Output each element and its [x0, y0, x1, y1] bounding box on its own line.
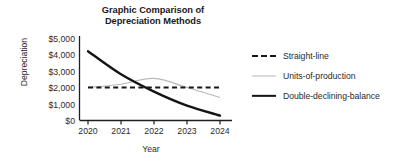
legend-swatch-dashed-line-icon [252, 51, 276, 61]
legend-item-units-of-production: Units-of-production [252, 66, 412, 86]
legend-label-double-declining-balance: Double-declining-balance [283, 91, 380, 101]
legend-swatch-thin-line-icon [252, 71, 276, 81]
legend-label-straight-line: Straight-line [283, 51, 329, 61]
series-line-double-declining-balance [88, 51, 220, 115]
legend-label-units-of-production: Units-of-production [283, 71, 355, 81]
chart-legend: Straight-line Units-of-production Double… [252, 46, 412, 106]
legend-swatch-thick-line-icon [252, 91, 276, 101]
axes-group [80, 36, 233, 125]
legend-item-straight-line: Straight-line [252, 46, 412, 66]
depreciation-chart-figure: Graphic Comparison of Depreciation Metho… [0, 0, 413, 162]
series-group [88, 51, 220, 115]
legend-item-double-declining-balance: Double-declining-balance [252, 86, 412, 106]
